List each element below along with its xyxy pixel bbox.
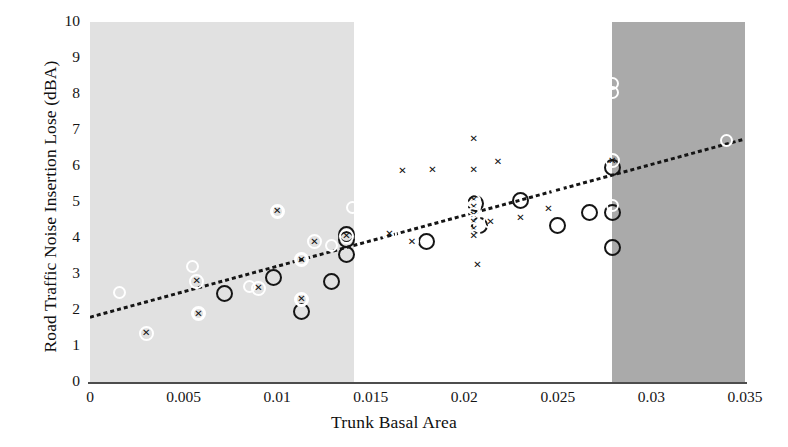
x-tick-label: 0.03 [616,388,686,406]
x-tick-label: 0.015 [336,388,406,406]
data-point-cross-x: ✕ [395,164,410,179]
data-point-cross-x: ✕ [294,292,309,307]
data-point-cross-x: ✕ [470,258,485,273]
data-point-cross-x: ✕ [513,211,528,226]
x-tick-label: 0.035 [710,388,780,406]
x-axis-line [88,382,747,384]
plot-area: ✕✕✕✕✕✕✕✕✕✕✕✕✕✕✕✕✕✕✕✕✕✕✕✕✕✕✕ [90,22,745,382]
data-point-open-white-circle [720,134,733,147]
x-tick-label: 0 [55,388,125,406]
x-tick-label: 0.02 [429,388,499,406]
data-point-open-black-circle [512,192,529,209]
data-point-cross-x: ✕ [189,274,204,289]
data-point-cross-x: ✕ [425,162,440,177]
x-axis-title: Trunk Basal Area [0,412,788,433]
data-point-cross-x: ✕ [466,229,481,244]
x-tick-label: 0.005 [149,388,219,406]
data-point-open-white-circle [346,201,359,214]
y-axis-title: Road Traffic Noise Insertion Lose (dBA) [40,7,61,407]
data-point-cross-x: ✕ [294,252,309,267]
data-point-cross-x: ✕ [339,229,354,244]
data-point-cross-x: ✕ [270,204,285,219]
data-point-open-white-circle [606,86,619,99]
data-point-open-white-circle [113,286,126,299]
data-point-cross-x: ✕ [382,227,397,242]
data-point-cross-x: ✕ [605,153,620,168]
scatter-chart-figure: ✕✕✕✕✕✕✕✕✕✕✕✕✕✕✕✕✕✕✕✕✕✕✕✕✕✕✕ 00.0050.010.… [0,0,788,447]
data-point-open-white-circle [325,239,338,252]
x-tick-label: 0.01 [242,388,312,406]
data-point-cross-x: ✕ [251,281,266,296]
data-point-open-black-circle [338,246,355,263]
data-point-cross-x: ✕ [139,326,154,341]
x-tick-label: 0.025 [523,388,593,406]
data-point-cross-x: ✕ [466,132,481,147]
data-point-open-black-circle [323,273,340,290]
data-point-open-black-circle [265,269,282,286]
trendline [90,22,745,382]
data-point-open-black-circle [604,239,621,256]
data-point-cross-x: ✕ [541,202,556,217]
data-point-open-white-circle [606,199,619,212]
